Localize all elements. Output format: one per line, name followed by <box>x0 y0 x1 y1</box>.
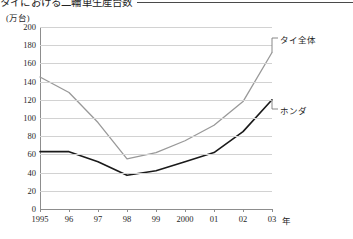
series-label-honda: ホンダ <box>280 104 307 116</box>
leader-line <box>272 38 278 52</box>
series-label-thailand-total: タイ全体 <box>280 33 316 45</box>
chart-figure: タイにおける二輪車生産台数 (万台) 200180160140120100806… <box>0 0 353 239</box>
leader-line <box>272 100 278 109</box>
